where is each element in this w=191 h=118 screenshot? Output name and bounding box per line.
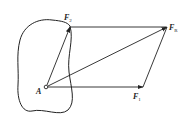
force-f2-label: F2 (63, 13, 72, 23)
force-diagram: A F2 FR F1 (0, 0, 191, 118)
point-a-marker (44, 85, 48, 89)
parallelogram-right-side (143, 27, 167, 87)
force-fr-label: FR (168, 23, 178, 33)
rigid-body-outline (18, 20, 73, 113)
point-a-label: A (35, 87, 42, 96)
force-f1-label: F1 (132, 92, 141, 102)
force-fr-arrow (48, 27, 167, 86)
force-f2-arrow (47, 27, 70, 85)
